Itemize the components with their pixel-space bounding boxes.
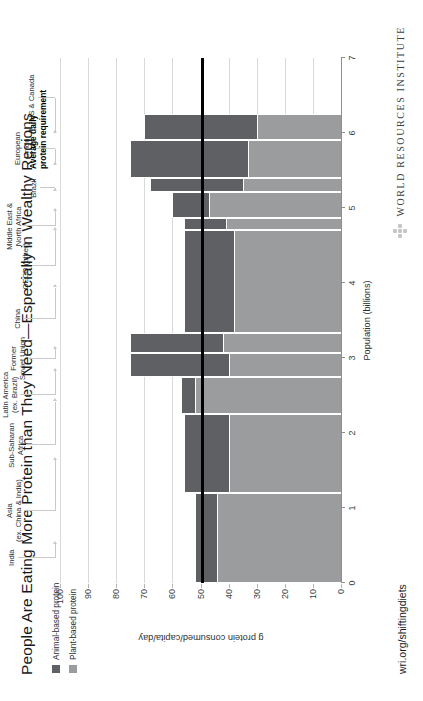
y-tick-label: 70: [139, 589, 149, 599]
leader-line: [28, 358, 55, 359]
legend-label-plant: Plant-based protein: [69, 589, 78, 660]
requirement-reference-line: [201, 58, 204, 583]
x-tick-mark: [341, 357, 345, 358]
leader-arrow-icon: [53, 208, 57, 211]
y-tick-mark: [313, 584, 314, 588]
y-tick-label: 60: [167, 589, 177, 599]
bar-segment-animal[interactable]: [130, 141, 248, 179]
x-axis-line: [341, 58, 342, 583]
x-tick-label: 1: [347, 505, 357, 510]
y-tick-label: 100: [55, 589, 65, 604]
leader-arrow-icon: [53, 541, 57, 544]
leader-arrow-icon: [53, 130, 57, 133]
legend-swatch-plant: [69, 665, 77, 673]
leader-arrow-icon: [53, 227, 57, 230]
bar-segment-plant[interactable]: [243, 178, 341, 192]
leader-line: [55, 288, 56, 319]
y-tick-label: 50: [196, 589, 206, 599]
leader-line: [20, 394, 55, 395]
y-tick-mark: [144, 584, 145, 588]
x-tick-mark: [341, 282, 345, 283]
category-label: Former Soviet Union: [10, 337, 27, 380]
y-tick-label: 90: [83, 589, 93, 599]
bar-segment-animal[interactable]: [195, 493, 217, 583]
leader-line: [55, 230, 56, 266]
bar-segment-animal[interactable]: [184, 230, 235, 334]
leader-arrow-icon: [53, 346, 57, 349]
bar-segment-plant[interactable]: [257, 114, 341, 140]
wri-diamond-icon: [393, 224, 407, 238]
leader-arrow-icon: [53, 457, 57, 460]
y-tick-mark: [172, 584, 173, 588]
x-tick-mark: [341, 57, 345, 58]
bar-segment-animal[interactable]: [130, 333, 223, 353]
bar-segment-plant[interactable]: [217, 493, 341, 583]
leader-line: [55, 98, 56, 134]
bar-segment-animal[interactable]: [181, 377, 195, 415]
x-tick-label: 7: [347, 55, 357, 60]
leader-arrow-icon: [53, 162, 57, 165]
y-tick-label: 30: [252, 589, 262, 599]
x-tick-label: 5: [347, 205, 357, 210]
footer-url[interactable]: wri.org/shiftingdiets: [396, 584, 408, 674]
leader-line: [55, 371, 56, 395]
y-tick-label: 20: [280, 589, 290, 599]
y-tick-mark: [60, 584, 61, 588]
bar-segment-animal[interactable]: [150, 178, 243, 192]
x-tick-mark: [341, 432, 345, 433]
plot-area: 0102030405060708090100: [60, 58, 341, 583]
leader-line: [55, 402, 56, 446]
leader-arrow-icon: [53, 399, 57, 402]
y-tick-label: 10: [308, 589, 318, 599]
x-tick-mark: [341, 132, 345, 133]
x-axis-title: Population (billions): [362, 58, 372, 583]
leader-arrow-icon: [53, 188, 57, 191]
category-label: OECD (other): [22, 243, 31, 289]
bar-segment-plant[interactable]: [229, 414, 341, 493]
category-label: Middle East & North Africa: [6, 203, 23, 250]
y-tick-mark: [116, 584, 117, 588]
category-label: China: [14, 309, 23, 329]
y-tick-label: 40: [224, 589, 234, 599]
leader-line: [24, 510, 55, 511]
bar-segment-plant[interactable]: [223, 333, 341, 353]
wri-branding: WORLD RESOURCES INSTITUTE: [393, 26, 407, 238]
y-tick-label: 0: [336, 589, 346, 594]
x-tick-mark: [341, 582, 345, 583]
leader-line: [24, 318, 55, 319]
y-tick-mark: [257, 584, 258, 588]
x-tick-mark: [341, 207, 345, 208]
legend-swatch-animal: [52, 665, 60, 673]
bar-segment-plant[interactable]: [226, 218, 341, 230]
bar-segment-animal[interactable]: [184, 218, 226, 230]
leader-line: [24, 225, 55, 226]
leader-arrow-icon: [53, 368, 57, 371]
bar-segment-animal[interactable]: [184, 414, 229, 493]
leader-line: [18, 557, 55, 558]
y-tick-mark: [229, 584, 230, 588]
category-label: India: [8, 549, 17, 565]
category-label: Brazil: [30, 179, 39, 198]
y-tick-mark: [285, 584, 286, 588]
category-label: Asia (ex. China & India): [6, 479, 23, 542]
requirement-annotation-label: Average daily protein requirement: [28, 90, 48, 169]
bar-segment-plant[interactable]: [234, 230, 341, 334]
bar-segment-plant[interactable]: [209, 192, 341, 218]
leader-line: [55, 544, 56, 558]
bar-segment-animal[interactable]: [130, 354, 228, 377]
bar-segment-plant[interactable]: [195, 377, 341, 415]
y-tick-mark: [341, 584, 342, 588]
legend-item-plant: Plant-based protein: [66, 583, 80, 673]
leader-line: [55, 460, 56, 511]
bar-segment-plant[interactable]: [229, 354, 341, 377]
y-axis-title: g protein consumed/capita/day: [60, 631, 341, 645]
leader-line: [32, 265, 55, 266]
y-tick-label: 80: [111, 589, 121, 599]
leader-line: [55, 349, 56, 358]
y-tick-mark: [88, 584, 89, 588]
y-tick-mark: [201, 584, 202, 588]
x-tick-label: 4: [347, 280, 357, 285]
rotated-figure-wrapper: People Are Eating More Protein than They…: [0, 0, 423, 701]
bar-segment-plant[interactable]: [248, 141, 341, 179]
leader-line: [26, 444, 55, 445]
